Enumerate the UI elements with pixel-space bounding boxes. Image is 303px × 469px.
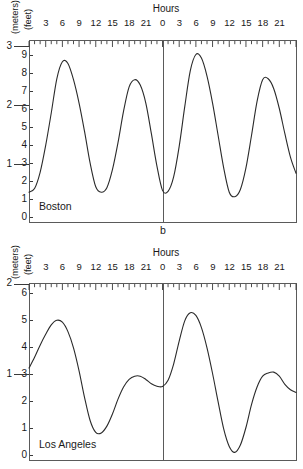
boston-tide-curve — [29, 54, 296, 197]
la-tide-curve — [29, 312, 296, 452]
boston-panel: (meters) (feet) Hours 3 6 9 12 15 18 21 … — [0, 0, 303, 235]
la-plot-svg — [0, 235, 303, 469]
la-panel: (meters) (feet) Hours 3 6 9 12 15 18 21 … — [0, 235, 303, 469]
boston-city-label: Boston — [39, 200, 72, 212]
la-city-label: Los Angeles — [39, 438, 96, 450]
boston-hour-tickmarks — [29, 41, 296, 47]
tide-chart-los-angeles: (meters) (feet) Hours 3 6 9 12 15 18 21 … — [0, 235, 303, 469]
panel-letter-b: b — [143, 224, 183, 236]
la-hour-tickmarks — [29, 284, 296, 290]
tide-chart-boston: (meters) (feet) Hours 3 6 9 12 15 18 21 … — [0, 0, 303, 235]
